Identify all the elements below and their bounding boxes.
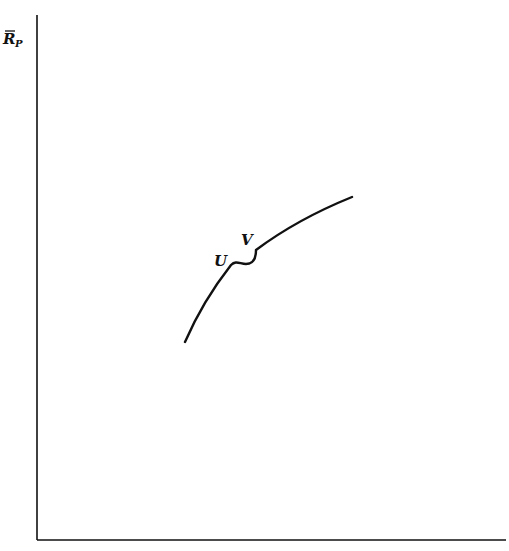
frontier-curve [185, 197, 352, 342]
point-label-u: U [214, 252, 228, 270]
y-axis-label-sub: P [14, 38, 23, 49]
diagram-canvas: R P U V [0, 0, 509, 551]
y-axis-label-main: R [2, 30, 15, 48]
y-axis-label: R P [2, 30, 23, 49]
point-label-v: V [241, 231, 254, 249]
